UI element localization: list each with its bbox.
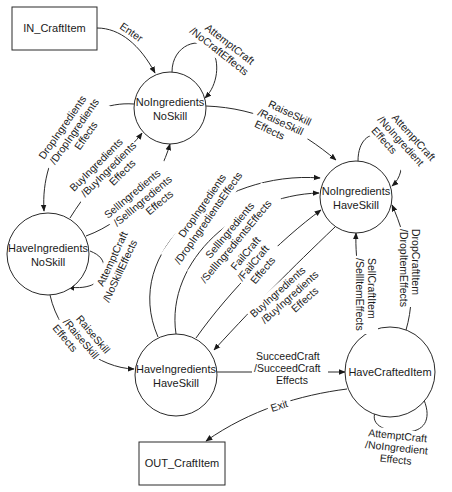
label-hins-self: AttemptCraft /NoSkillEffects xyxy=(88,227,144,307)
state-label-line1: HaveIngredients xyxy=(8,242,89,254)
svg-text:SucceedCraft: SucceedCraft xyxy=(256,350,320,362)
svg-text:SellCraftItem: SellCraftItem xyxy=(366,258,378,319)
edge-exit xyxy=(206,389,347,441)
state-label-line2: HaveSkill xyxy=(153,377,199,389)
label-hins-to-hihs: RaiseSkill /RaiseSkill Effects xyxy=(48,305,113,372)
state-havecrafteditem: HaveCraftedItem xyxy=(345,327,435,417)
svg-text:DropCraftItem: DropCraftItem xyxy=(410,229,422,295)
state-label-line1: NoIngredients xyxy=(136,96,205,108)
label-hihs-to-hci: SucceedCraft /SucceedCraft Effects xyxy=(252,350,328,388)
label-hci-to-ninhs-drop: DropCraftItem /DropItemEffects xyxy=(396,227,422,307)
out-terminal-label: OUT_CraftItem xyxy=(145,457,220,469)
state-haveingredients-noskill: HaveIngredients NoSkill xyxy=(7,213,89,295)
label-nins-to-ninhs: RaiseSkill /RaiseSkill Effects xyxy=(247,93,317,153)
state-label-line1: HaveCraftedItem xyxy=(348,366,431,378)
svg-text:/DropItemEffects: /DropItemEffects xyxy=(398,229,410,307)
state-label-line2: NoSkill xyxy=(31,256,65,268)
label-exit: Exit xyxy=(266,396,293,416)
state-label-line1: NoIngredients xyxy=(322,185,391,197)
state-diagram: IN_CraftItem OUT_CraftItem NoIngredients… xyxy=(0,0,452,492)
in-terminal-label: IN_CraftItem xyxy=(23,22,85,34)
state-label-line1: HaveIngredients xyxy=(136,363,217,375)
svg-text:/SellItemEffects: /SellItemEffects xyxy=(354,258,366,331)
svg-text:Exit: Exit xyxy=(269,397,289,414)
label-hci-self: AttemptCraft /NoIngredient Effects xyxy=(359,426,430,471)
state-label-line2: NoSkill xyxy=(153,110,187,122)
svg-text:/SucceedCraft: /SucceedCraft xyxy=(254,362,321,374)
state-haveingredients-haveskill: HaveIngredients HaveSkill xyxy=(135,334,217,416)
label-hci-to-ninhs-sell: SellCraftItem /SellItemEffects xyxy=(352,256,378,334)
label-nins-self: AttemptCraft /NoCraftEffects xyxy=(187,15,260,80)
state-noingredients-noskill: NoIngredients NoSkill xyxy=(134,72,206,144)
state-label-line2: HaveSkill xyxy=(333,199,379,211)
out-terminal-box: OUT_CraftItem xyxy=(139,442,225,485)
state-noingredients-haveskill: NoIngredients HaveSkill xyxy=(320,161,392,233)
in-terminal-box: IN_CraftItem xyxy=(12,7,97,50)
svg-text:Effects: Effects xyxy=(276,374,308,386)
